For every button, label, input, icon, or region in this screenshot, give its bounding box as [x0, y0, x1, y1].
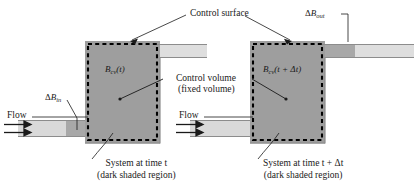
delta-b-in-label: ΔBin [45, 92, 61, 102]
control-volume-figure [0, 0, 414, 190]
right-system-caption-line2: (dark shaded region) [263, 170, 343, 182]
left-system-region [85, 41, 160, 143]
right-flow-label: Flow [179, 110, 199, 120]
control-volume-label-line2: (fixed volume) [178, 84, 235, 94]
right-system-region [250, 41, 325, 143]
left-flow-label: Flow [7, 110, 27, 120]
right-cv-symbol-B: B [263, 64, 269, 74]
right-cv-symbol-subscript: cv [269, 68, 275, 75]
delta-b-out-subscript: out [316, 12, 324, 19]
control-surface-leader-left [130, 15, 186, 45]
control-surface-label: Control surface [190, 8, 249, 18]
control-volume-leader-right-dot [284, 97, 287, 100]
delta-b-in-subscript: in [56, 96, 61, 103]
left-cv-symbol-subscript: cv [111, 68, 117, 75]
right-cv-symbol-argument: (t + Δt) [274, 64, 301, 74]
control-volume-label-line1: Control volume [176, 73, 236, 83]
left-cv-symbol-B: B [105, 64, 111, 74]
control-volume-leader-left-dot [118, 97, 121, 100]
left-system-caption: System at time t (dark shaded region) [97, 158, 176, 181]
delta-b-out-label: ΔBout [305, 8, 325, 18]
right-system-caption: System at time t + Δt (dark shaded regio… [263, 158, 343, 181]
left-cv-symbol-argument: (t) [116, 64, 125, 74]
control-surface-leader-right [245, 16, 292, 45]
right-delta-b-out-leader [341, 14, 348, 42]
left-outlet-pipe-fluid [160, 45, 207, 57]
right-outlet-delta-b-out-region [325, 45, 355, 57]
left-system-caption-line2: (dark shaded region) [97, 170, 176, 182]
left-system-caption-line1: System at time t [97, 158, 176, 170]
left-cv-symbol: Bcv(t) [105, 64, 125, 74]
left-inlet-delta-b-in-region [66, 121, 85, 136]
right-cv-symbol: Bcv(t + Δt) [263, 64, 301, 74]
right-system-caption-line1: System at time t + Δt [263, 158, 343, 170]
